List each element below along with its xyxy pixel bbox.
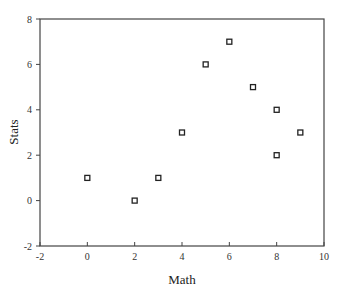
data-point-square [203,62,208,67]
y-axis-ticks: -202468 [24,14,40,252]
data-point-square [274,153,279,158]
x-tick-label: -2 [36,251,44,262]
y-tick-label: 0 [27,195,32,206]
x-tick-label: 4 [180,251,185,262]
x-axis-ticks: -20246810 [36,242,329,262]
y-tick-label: 6 [27,59,32,70]
data-point-square [85,175,90,180]
y-axis-label: Stats [6,119,21,144]
data-point-square [251,85,256,90]
x-tick-label: 10 [319,251,329,262]
y-tick-label: 8 [27,14,32,25]
x-tick-label: 0 [85,251,90,262]
data-point-square [298,130,303,135]
y-tick-label: 4 [27,104,32,115]
data-point-square [227,39,232,44]
data-points [85,39,303,203]
x-tick-label: 8 [274,251,279,262]
data-point-square [180,130,185,135]
data-point-square [156,175,161,180]
x-tick-label: 6 [227,251,232,262]
scatter-chart: -20246810 -202468 Math Stats [0,0,341,293]
data-point-square [132,198,137,203]
y-tick-label: -2 [24,241,32,252]
x-tick-label: 2 [132,251,137,262]
x-axis-label: Math [168,272,196,287]
data-point-square [274,107,279,112]
y-tick-label: 2 [27,150,32,161]
